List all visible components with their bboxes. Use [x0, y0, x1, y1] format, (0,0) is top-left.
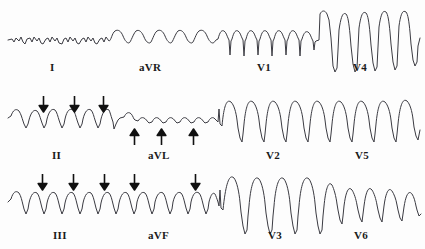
down-arrow-marker	[37, 174, 48, 191]
lead-label-V1: V1	[257, 62, 271, 73]
lead-label-V4: V4	[353, 62, 367, 73]
lead-label-aVL: aVL	[148, 150, 170, 161]
lead-label-V3: V3	[268, 230, 282, 241]
ecg-row-1: I aVR V1 V4	[0, 0, 425, 84]
ecg-figure: I aVR V1 V4 II aVL V2 V5	[0, 0, 425, 249]
up-arrow-marker	[129, 128, 140, 145]
lead-label-V5: V5	[355, 150, 369, 161]
lead-label-aVR: aVR	[139, 62, 161, 73]
down-arrow-marker	[98, 96, 109, 113]
up-arrow-marker	[188, 128, 199, 145]
lead-label-aVF: aVF	[148, 230, 169, 241]
down-arrow-marker	[99, 174, 110, 191]
lead-label-V2: V2	[266, 150, 280, 161]
ecg-row-2: II aVL V2 V5	[0, 84, 425, 166]
ecg-row-3: III aVF V3 V6	[0, 166, 425, 249]
down-arrow-marker	[38, 96, 49, 113]
lead-label-V6: V6	[354, 230, 368, 241]
lead-label-I: I	[50, 62, 55, 73]
down-arrow-marker	[129, 174, 140, 191]
down-arrow-marker	[69, 96, 80, 113]
down-arrow-marker	[68, 174, 79, 191]
lead-label-II: II	[52, 150, 61, 161]
lead-label-III: III	[53, 230, 67, 241]
down-arrow-marker	[190, 174, 201, 191]
up-arrow-marker	[156, 128, 167, 145]
